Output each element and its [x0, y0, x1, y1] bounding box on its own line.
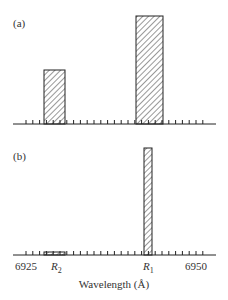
panel-b: (b) 6925 6950 R2 R1 Wavelength (Å) [13, 148, 216, 291]
tick-label-6925: 6925 [15, 260, 38, 272]
chart-canvas: (a) (b) 6925 6950 R2 R1 Wavelength (Å) [0, 0, 228, 300]
bar-b-r1 [144, 148, 152, 255]
tick-label-6950: 6950 [185, 260, 208, 272]
panel-b-label: (b) [13, 150, 26, 163]
r2-label: R2 [50, 260, 62, 275]
bar-a-r2 [44, 70, 65, 124]
bar-a-r1 [136, 16, 163, 124]
panel-a: (a) [13, 16, 216, 124]
panel-a-label: (a) [13, 17, 26, 30]
r1-label: R1 [142, 260, 154, 275]
x-axis-label: Wavelength (Å) [79, 278, 150, 291]
